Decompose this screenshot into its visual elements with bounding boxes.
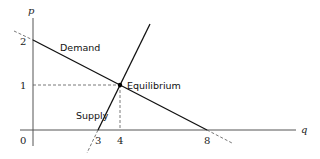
equilibrium-point — [118, 83, 122, 87]
y-tick-1: 1 — [20, 80, 26, 91]
equilibrium-label: Equilibrium — [127, 80, 181, 91]
origin-label: 0 — [20, 135, 26, 146]
x-tick-3: 3 — [95, 135, 101, 146]
y-axis-label: p — [28, 5, 35, 16]
supply-demand-chart: p q 0 2 1 3 4 8 Demand Supply Equilibriu… — [0, 0, 320, 159]
y-tick-2: 2 — [20, 36, 26, 47]
demand-extension-right — [207, 130, 232, 143]
supply-label: Supply — [76, 110, 109, 121]
x-tick-8: 8 — [204, 135, 210, 146]
x-tick-4: 4 — [117, 135, 123, 146]
x-axis-label: q — [301, 124, 307, 135]
demand-label: Demand — [60, 42, 100, 53]
